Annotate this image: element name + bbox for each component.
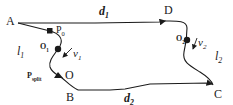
label-b: B [66, 91, 74, 103]
path-l2 [165, 21, 213, 85]
label-o1: O1 [40, 43, 49, 53]
path-d1 [18, 21, 165, 23]
label-l2: l2 [215, 50, 222, 65]
label-p0: P0 [56, 25, 65, 38]
label-d2: d2 [124, 92, 134, 105]
label-psplit: Psplit [27, 72, 41, 82]
path-d2 [78, 83, 212, 90]
path-diagram [0, 0, 233, 105]
label-v2: v2 [198, 37, 206, 51]
o1-dot-marker [55, 46, 61, 52]
label-a: A [6, 15, 15, 27]
label-v1: v1 [73, 48, 81, 62]
label-c: C [214, 88, 222, 100]
p0-square-marker [47, 28, 53, 34]
v1-arrow-icon [63, 48, 72, 57]
label-d: D [164, 4, 173, 16]
label-l1: l1 [17, 45, 24, 60]
label-d1: d1 [99, 5, 109, 20]
v2-arrow-icon [193, 38, 197, 49]
label-o2: O2 [176, 35, 185, 45]
label-o: O [65, 69, 74, 81]
